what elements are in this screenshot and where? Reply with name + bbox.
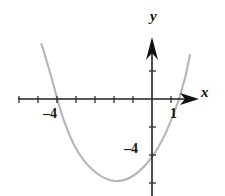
parabola-figure: y x –4 1 –4 — [0, 0, 225, 196]
y-axis-label: y — [150, 9, 157, 24]
x-axis-label: x — [201, 85, 209, 100]
x-tick-label-1: 1 — [170, 107, 177, 121]
x-tick-label-neg-4: –4 — [43, 107, 57, 121]
y-tick-label-neg-4: –4 — [124, 142, 138, 156]
parabola-curve — [42, 44, 191, 181]
graph-canvas — [0, 0, 225, 196]
